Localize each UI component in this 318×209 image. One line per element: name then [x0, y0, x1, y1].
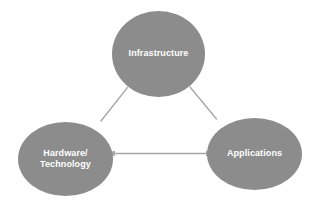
node-infrastructure-label: Infrastructure — [125, 48, 193, 60]
node-applications[interactable]: Applications — [207, 118, 302, 190]
node-applications-label: Applications — [223, 148, 286, 160]
node-infrastructure[interactable]: Infrastructure — [112, 11, 205, 97]
diagram-canvas: Infrastructure Hardware/ Technology Appl… — [0, 0, 318, 209]
node-hardware-technology[interactable]: Hardware/ Technology — [18, 122, 113, 196]
connector-infrastructure-to-hardware — [101, 88, 128, 122]
node-hardware-technology-label: Hardware/ Technology — [36, 148, 95, 171]
connector-infrastructure-to-applications — [190, 87, 217, 119]
